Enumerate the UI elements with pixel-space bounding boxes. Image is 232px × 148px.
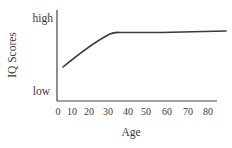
x-tick: 10: [67, 106, 77, 117]
x-tick: 30: [103, 106, 113, 117]
x-tick: 50: [141, 106, 151, 117]
y-tick-low: low: [33, 85, 51, 97]
y-tick-high: high: [33, 12, 54, 25]
x-tick: 70: [183, 106, 193, 117]
chart-svg: high low IQ Scores 0 10 20 30 40 50 60 7…: [0, 0, 232, 148]
y-axis-label: IQ Scores: [6, 32, 18, 78]
x-tick: 40: [123, 106, 133, 117]
iq-score-line: [63, 31, 226, 67]
x-tick: 80: [203, 106, 213, 117]
iq-age-line-chart: high low IQ Scores 0 10 20 30 40 50 60 7…: [0, 0, 232, 148]
x-tick: 20: [84, 106, 94, 117]
x-tick-labels: 0 10 20 30 40 50 60 70 80: [56, 106, 214, 117]
x-tick: 60: [162, 106, 172, 117]
x-axis-label: Age: [121, 126, 140, 139]
x-tick: 0: [56, 106, 61, 117]
